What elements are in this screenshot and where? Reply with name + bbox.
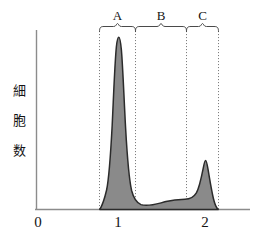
histogram-plot: A B C 0 1 2 <box>0 0 261 238</box>
gate-bracket-a <box>100 24 136 32</box>
gate-label-a: A <box>113 8 123 23</box>
gate-bracket-b <box>136 24 187 32</box>
distribution-curve <box>100 37 218 209</box>
gate-labels: A B C <box>113 8 207 23</box>
gate-bracket-c <box>187 24 219 32</box>
x-axis-tick-labels: 0 1 2 <box>34 214 209 230</box>
x-tick-label-0: 0 <box>34 214 42 230</box>
axis-lines <box>35 30 250 210</box>
figure-container: 細 胞 数 A <box>0 0 261 238</box>
gate-label-c: C <box>198 8 207 23</box>
x-tick-label-1: 1 <box>114 214 122 230</box>
gate-label-b: B <box>157 8 166 23</box>
gate-brackets <box>100 24 219 32</box>
x-tick-label-2: 2 <box>201 214 209 230</box>
distribution-curve-fill <box>100 37 218 209</box>
